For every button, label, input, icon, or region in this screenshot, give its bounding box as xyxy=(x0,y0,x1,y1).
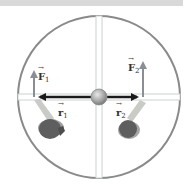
label-r1-base: r xyxy=(58,108,63,118)
label-r1-sub: 1 xyxy=(63,112,67,120)
platform-diagram xyxy=(0,0,190,184)
label-F1-sub: 1 xyxy=(45,76,49,84)
label-F2-sub: 2 xyxy=(135,67,139,75)
label-F2: F2 xyxy=(128,63,140,75)
label-F2-base: F xyxy=(128,63,135,73)
label-r2: r2 xyxy=(116,108,126,120)
center-hub xyxy=(91,89,107,105)
label-r2-sub: 2 xyxy=(121,112,125,120)
label-F1-base: F xyxy=(38,72,45,82)
label-r1: r1 xyxy=(58,108,68,120)
label-r2-base: r xyxy=(116,108,121,118)
label-F1: F1 xyxy=(38,72,50,84)
